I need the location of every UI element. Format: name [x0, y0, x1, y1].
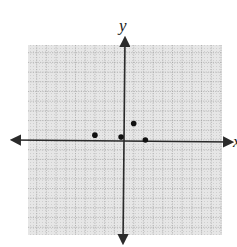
y-axis-label: y [117, 16, 127, 35]
data-point [143, 137, 149, 143]
data-point [131, 121, 137, 127]
x-axis-label: x [232, 132, 237, 151]
data-point [118, 134, 124, 140]
data-point [92, 132, 98, 138]
scatter-chart: y x [0, 0, 237, 247]
